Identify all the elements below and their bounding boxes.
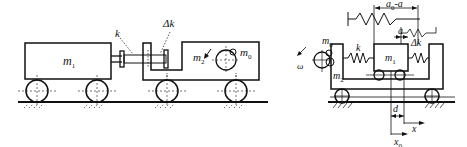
frame-m2: [331, 44, 443, 89]
left-figure: [18, 32, 268, 108]
label-x0: x0: [394, 137, 402, 147]
label-m0: m0: [240, 47, 251, 61]
label-a: a: [398, 26, 403, 36]
diagram-root: m1 k Δk m2 m0 a0-a a Δk k m0 m1 m2 ω d x…: [0, 0, 467, 147]
label-m1-right: m1: [385, 53, 396, 66]
label-delta-k-right: Δk: [411, 38, 421, 48]
label-m0-right: m0: [322, 36, 333, 49]
label-a0-minus-a: a0-a: [386, 0, 403, 12]
label-m2-right: m2: [333, 71, 344, 84]
label-k: k: [115, 28, 120, 39]
label-k-right: k: [356, 43, 360, 53]
label-m1: m1: [63, 55, 75, 70]
label-x: x: [412, 124, 416, 134]
label-m2: m2: [193, 52, 204, 66]
right-figure: [297, 5, 455, 136]
label-delta-k: Δk: [163, 18, 174, 29]
diagram-drawing: [0, 0, 467, 147]
label-d: d: [393, 104, 398, 114]
label-omega: ω: [297, 62, 303, 71]
